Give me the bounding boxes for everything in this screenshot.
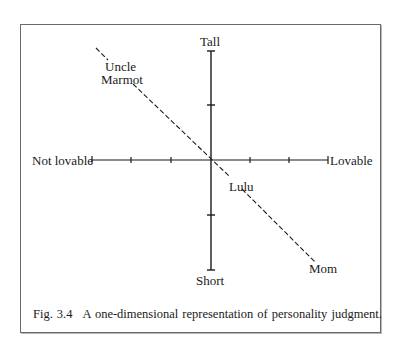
axis-label-not-lovable: Not lovable (32, 154, 93, 167)
axis-label-short: Short (196, 274, 224, 287)
axis-label-lovable: Lovable (330, 154, 373, 167)
point-label-marmot: Marmot (101, 73, 143, 86)
point-label-mom: Mom (309, 262, 337, 275)
point-label-lulu: Lulu (229, 180, 254, 193)
axis-label-tall: Tall (200, 35, 220, 48)
diagram-canvas (0, 0, 398, 343)
caption-text: A one-dimensional representation of pers… (82, 307, 381, 321)
caption-number: 3.4 (57, 307, 73, 321)
caption-prefix: Fig. (33, 307, 53, 321)
figure-caption: Fig.3.4A one-dimensional representation … (33, 307, 382, 322)
